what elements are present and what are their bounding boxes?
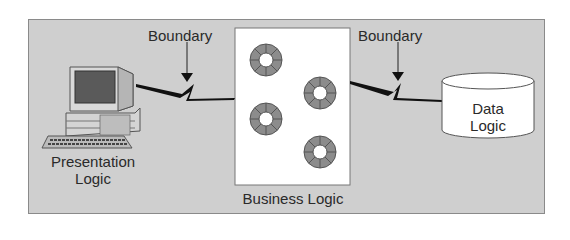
- boundary-label-left: Boundary: [148, 27, 212, 44]
- boundary-label-right: Boundary: [358, 27, 422, 44]
- business-logic-label: Business Logic: [228, 190, 358, 207]
- component-ring-icon: [250, 103, 282, 135]
- component-ring-icon: [250, 44, 282, 76]
- arrow-down-icon: [392, 72, 404, 81]
- desktop-computer-icon: [42, 67, 140, 148]
- presentation-logic-line2: Logic: [38, 170, 148, 187]
- lightning-connector-left: [136, 42, 235, 101]
- presentation-logic-line1: Presentation: [38, 153, 148, 170]
- lightning-connector-right: [350, 42, 442, 102]
- data-logic-label: Data Logic: [448, 100, 528, 134]
- component-ring-icon: [304, 136, 336, 168]
- data-logic-line2: Logic: [448, 117, 528, 134]
- data-logic-line1: Data: [448, 100, 528, 117]
- presentation-logic-label: Presentation Logic: [38, 153, 148, 187]
- arrow-down-icon: [181, 73, 193, 82]
- component-ring-icon: [304, 77, 336, 109]
